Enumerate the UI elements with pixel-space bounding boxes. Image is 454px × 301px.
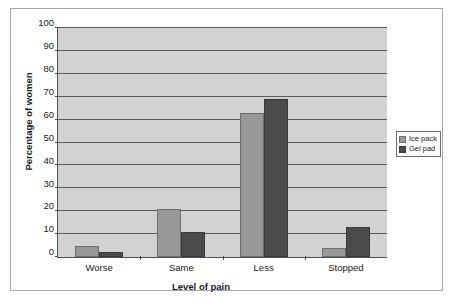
chart-figure: Percentage of women Level of pain 010203… <box>0 0 454 301</box>
x-axis-category-label: Stopped <box>328 262 363 273</box>
bar-stopped-gel-pad <box>346 227 370 257</box>
y-axis-tick-mark <box>55 119 58 120</box>
bar-same-gel-pad <box>181 232 205 257</box>
y-axis-tick-label: 10 <box>43 223 54 234</box>
gridline <box>58 233 387 234</box>
y-axis-tick-mark <box>55 27 58 28</box>
x-axis-title: Level of pain <box>31 281 371 292</box>
x-axis-category-label: Worse <box>85 262 112 273</box>
chart-frame: Percentage of women Level of pain 010203… <box>10 8 443 291</box>
y-axis-title: Percentage of women <box>23 42 34 202</box>
y-axis-tick-mark <box>55 142 58 143</box>
x-axis-category-label: Less <box>254 262 274 273</box>
bar-less-ice-pack <box>240 113 264 257</box>
bar-same-ice-pack <box>157 209 181 257</box>
legend-item-ice-pack: Ice pack <box>399 134 437 144</box>
x-axis-tick-mark <box>140 256 141 260</box>
gridline <box>58 73 387 74</box>
y-axis-tick-mark <box>55 50 58 51</box>
plot-area: 0102030405060708090100WorseSameLessStopp… <box>57 28 387 258</box>
gridline <box>58 142 387 143</box>
x-axis-tick-mark <box>223 256 224 260</box>
gridline <box>58 50 387 51</box>
y-axis-tick-mark <box>55 96 58 97</box>
bar-worse-ice-pack <box>75 246 99 257</box>
x-axis-category-label: Same <box>169 262 194 273</box>
gridline <box>58 164 387 165</box>
y-axis-tick-label: 40 <box>43 154 54 165</box>
legend-swatch-icon <box>399 146 406 153</box>
bar-stopped-ice-pack <box>322 248 346 257</box>
y-axis-tick-label: 0 <box>49 246 54 257</box>
gridline <box>58 210 387 211</box>
y-axis-tick-mark <box>55 233 58 234</box>
gridline <box>58 119 387 120</box>
y-axis-tick-label: 100 <box>38 17 54 28</box>
gridline <box>58 96 387 97</box>
gridline <box>58 27 387 28</box>
y-axis-tick-label: 70 <box>43 85 54 96</box>
bar-less-gel-pad <box>264 99 288 257</box>
y-axis-tick-label: 50 <box>43 131 54 142</box>
bar-worse-gel-pad <box>99 252 123 257</box>
y-axis-tick-mark <box>55 256 58 257</box>
legend-item-gel-pad: Gel pad <box>399 144 437 154</box>
legend-label: Ice pack <box>409 135 437 143</box>
y-axis-tick-label: 60 <box>43 108 54 119</box>
y-axis-tick-label: 20 <box>43 200 54 211</box>
gridline <box>58 187 387 188</box>
y-axis-tick-label: 80 <box>43 63 54 74</box>
legend-swatch-icon <box>399 136 406 143</box>
chart-legend: Ice packGel pad <box>396 131 441 157</box>
legend-label: Gel pad <box>409 145 435 153</box>
y-axis-tick-label: 30 <box>43 177 54 188</box>
y-axis-tick-mark <box>55 164 58 165</box>
y-axis-tick-label: 90 <box>43 40 54 51</box>
y-axis-tick-mark <box>55 210 58 211</box>
y-axis-tick-mark <box>55 187 58 188</box>
x-axis-tick-mark <box>305 256 306 260</box>
y-axis-tick-mark <box>55 73 58 74</box>
